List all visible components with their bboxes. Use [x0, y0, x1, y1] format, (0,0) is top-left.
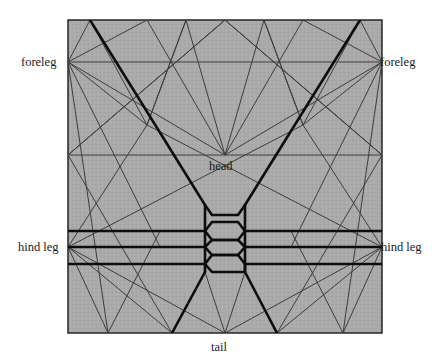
label-hind-leg-right: hind leg: [381, 241, 422, 254]
label-foreleg-left: foreleg: [21, 56, 56, 69]
label-hind-leg-left: hind leg: [18, 241, 59, 254]
label-foreleg-right: foreleg: [380, 56, 415, 69]
label-tail: tail: [211, 341, 227, 354]
crease-pattern-svg: [0, 0, 444, 361]
label-head: head: [209, 160, 233, 173]
crease-pattern-figure: foreleg foreleg head hind leg hind leg t…: [0, 0, 444, 361]
